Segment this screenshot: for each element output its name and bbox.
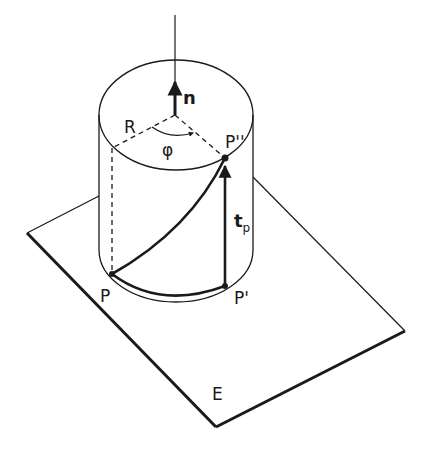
- angle-label: φ: [162, 140, 173, 160]
- label-p: P: [100, 286, 110, 306]
- radius-label: R: [124, 117, 136, 137]
- point-p-double-prime: [222, 155, 229, 162]
- label-p-double-prime: P'': [225, 132, 245, 152]
- cylinder-plane-diagram: n R φ tp P P' P'' E: [0, 0, 428, 449]
- normal-label: n: [183, 87, 196, 108]
- point-p: [109, 271, 115, 277]
- label-p-prime: P': [234, 288, 249, 308]
- point-p-prime: [222, 283, 228, 289]
- label-plane-e: E: [212, 384, 223, 404]
